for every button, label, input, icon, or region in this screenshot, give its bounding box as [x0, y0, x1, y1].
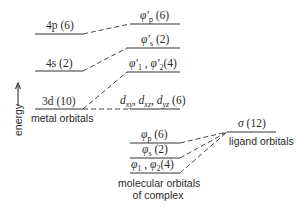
label-phi-prime-p: φ′p (6): [140, 9, 169, 26]
orbital-name: 4p: [46, 19, 58, 31]
phi-symbol: φ′: [129, 57, 138, 69]
label-phi-12: φ1 , φ2(4): [131, 158, 174, 175]
complex-caption-line2: of complex: [118, 189, 198, 201]
metal-orbitals-caption: metal orbitals: [31, 112, 93, 124]
degeneracy: (6): [154, 128, 167, 140]
orbital-name: 3d: [42, 95, 54, 107]
degeneracy: (12): [247, 117, 266, 129]
complex-caption: molecular orbitals of complex: [118, 177, 198, 201]
phi-symbol: φ′: [140, 9, 149, 21]
corr-4p-to-phi-prime-p: [83, 24, 130, 34]
subscript: s: [150, 39, 153, 48]
separator: ,: [141, 158, 150, 170]
subscript: p: [147, 134, 151, 143]
orbital-name: 4s: [46, 57, 56, 69]
label-sigma: σ (12): [238, 117, 266, 129]
label-3d: 3d (10): [42, 95, 76, 107]
degeneracy: (4): [163, 57, 176, 69]
corr-4s-to-phi-prime-s: [83, 48, 127, 71]
degeneracy: (6): [156, 9, 169, 21]
corr-phi-12-to-sigma: [180, 132, 227, 173]
degeneracy: (2): [154, 143, 167, 155]
subscript: s: [148, 149, 151, 158]
corr-phi-p-to-sigma: [180, 132, 227, 143]
label-4s: 4s (2): [46, 57, 73, 69]
degeneracy: (10): [56, 95, 75, 107]
label-4p: 4p (6): [46, 19, 74, 31]
subscript: xy: [126, 100, 133, 109]
complex-caption-line1: molecular orbitals: [118, 177, 198, 189]
subscript: p: [149, 15, 153, 24]
phi-symbol: φ′: [141, 33, 150, 45]
degeneracy: (2): [156, 33, 169, 45]
separator: ,: [142, 57, 151, 69]
corr-phi-s-to-sigma: [180, 132, 227, 158]
ligand-orbitals-caption: ligand orbitals: [229, 135, 294, 147]
energy-axis-label: energy: [12, 104, 24, 136]
degeneracy: (4): [160, 158, 173, 170]
label-phi-prime-12: φ′1 , φ′2(4): [129, 57, 177, 74]
degeneracy: (6): [172, 94, 185, 106]
label-phi-prime-s: φ′s (2): [141, 33, 169, 50]
degeneracy: (2): [59, 57, 72, 69]
mo-energy-diagram: energy 4p (6) 4s (2) 3d (10) metal orbit…: [0, 0, 298, 211]
label-d-nonbonding: dxy, dxz, dyz (6): [120, 94, 186, 111]
subscript: yz: [163, 100, 170, 109]
degeneracy: (6): [60, 19, 73, 31]
sigma-symbol: σ: [238, 117, 244, 129]
